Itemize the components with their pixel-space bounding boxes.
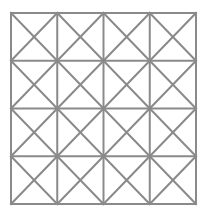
grid-diagram — [0, 0, 205, 214]
